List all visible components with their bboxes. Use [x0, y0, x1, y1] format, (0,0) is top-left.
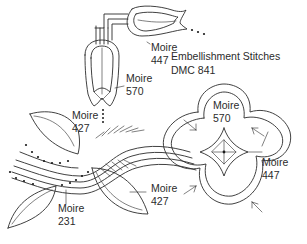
lower-left-leaf — [8, 186, 56, 228]
label-lower-right-leaf-name: Moire — [151, 182, 177, 194]
label-upper-leaf-code: 427 — [72, 122, 90, 134]
label-lower-left-leaf-code: 231 — [58, 215, 76, 227]
label-middle-tulip-name: Moire — [126, 72, 152, 84]
label-quatrefoil-outline-code: 447 — [262, 169, 280, 181]
label-top-tulip-name: Moire — [151, 41, 177, 53]
label-lower-left-leaf-name: Moire — [58, 202, 84, 214]
title-line-2: DMC 841 — [171, 64, 216, 76]
label-top-tulip-code: 447 — [151, 54, 169, 66]
embroidery-pattern-diagram: Embellishment Stitches DMC 841 Moire 447… — [0, 0, 307, 244]
tulip-stems — [95, 14, 128, 44]
label-quatrefoil-center-code: 570 — [213, 112, 231, 124]
label-lower-right-leaf-code: 427 — [151, 195, 169, 207]
label-quatrefoil-outline-name: Moire — [262, 156, 288, 168]
top-tulip — [127, 6, 205, 36]
title-line-1: Embellishment Stitches — [171, 50, 280, 62]
label-middle-tulip-code: 570 — [126, 85, 144, 97]
label-quatrefoil-center-name: Moire — [213, 99, 239, 111]
label-upper-leaf-name: Moire — [72, 109, 98, 121]
